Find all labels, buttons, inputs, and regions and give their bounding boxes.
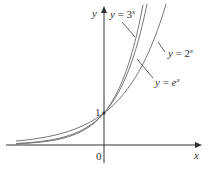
curve-2: [16, 4, 147, 143]
x-axis-arrow-icon: [195, 142, 202, 148]
leader-ex: [137, 59, 153, 78]
x-axis-label: x: [193, 149, 199, 161]
curve-1: [16, 4, 166, 141]
leader-2x: [158, 42, 165, 52]
leader-3x: [122, 22, 135, 37]
curve-0: [16, 5, 143, 144]
curves: [16, 4, 166, 144]
y-axis-label: y: [91, 7, 97, 19]
one-label: 1: [95, 106, 101, 118]
label-2x: y = 2x: [167, 47, 194, 59]
point-0-1: [102, 111, 105, 114]
label-ex: y = ex: [154, 76, 181, 88]
y-axis-arrow-icon: [101, 6, 107, 13]
exponential-chart: y x 0 1 y = 3x y = 2x y = ex: [0, 0, 214, 170]
label-3x: y = 3x: [109, 8, 136, 20]
origin-label: 0: [96, 150, 102, 162]
